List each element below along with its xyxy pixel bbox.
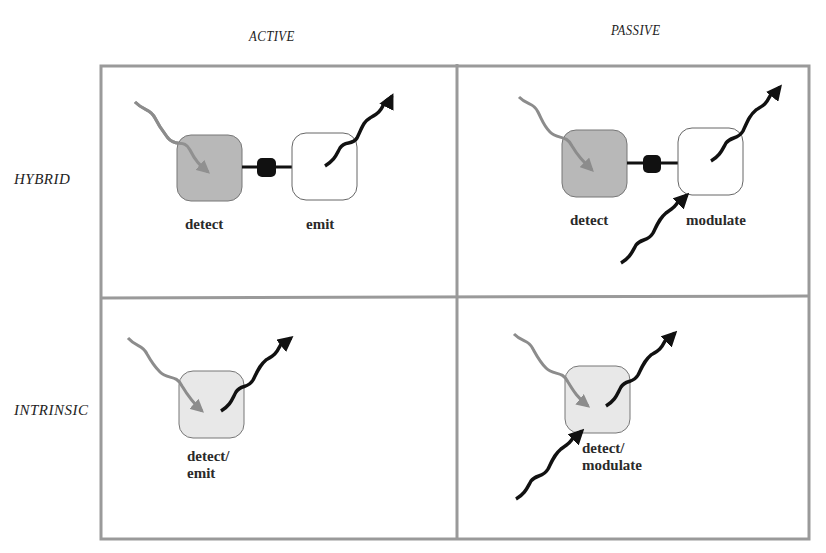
label-modulate: modulate bbox=[686, 212, 746, 229]
outgoing-signal-arrow bbox=[711, 87, 780, 161]
cell-hybrid-active bbox=[135, 96, 392, 201]
cell-intrinsic-active bbox=[128, 338, 291, 438]
incoming-modulation-arrow bbox=[516, 431, 582, 499]
outgoing-signal-arrow bbox=[325, 96, 392, 166]
label-emit: emit bbox=[187, 465, 215, 482]
label-detect: detect bbox=[185, 216, 223, 233]
diagram-canvas bbox=[0, 0, 826, 553]
label-detect-slash: detect/ bbox=[582, 440, 624, 457]
label-modulate: modulate bbox=[582, 457, 642, 474]
detect-emit-box bbox=[179, 371, 244, 438]
detect-modulate-box bbox=[565, 366, 630, 433]
incoming-modulation-arrow bbox=[621, 195, 687, 263]
connector-node bbox=[643, 155, 661, 173]
cell-intrinsic-passive bbox=[514, 333, 675, 499]
label-detect-slash: detect/ bbox=[187, 448, 229, 465]
detect-box bbox=[562, 130, 627, 197]
cell-hybrid-passive bbox=[519, 87, 780, 263]
connector-node bbox=[257, 158, 276, 177]
label-detect: detect bbox=[570, 212, 608, 229]
label-emit: emit bbox=[306, 216, 334, 233]
